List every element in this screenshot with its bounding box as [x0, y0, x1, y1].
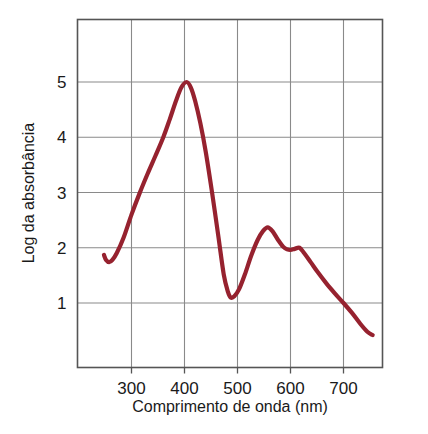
y-tick-label: 1 [57, 294, 66, 313]
x-tick-label: 400 [170, 379, 198, 398]
y-tick-label: 2 [57, 239, 66, 258]
y-axis-title: Log da absorbância [20, 123, 37, 264]
chart-canvas: 300400500600700 12345 Comprimento de ond… [0, 0, 428, 434]
y-tick-label: 5 [57, 73, 66, 92]
x-axis-title: Comprimento de onda (nm) [132, 398, 328, 415]
x-tick-label: 600 [276, 379, 304, 398]
x-tick-label: 300 [117, 379, 145, 398]
x-tick-label: 700 [329, 379, 357, 398]
absorbance-spectrum-chart: 300400500600700 12345 Comprimento de ond… [0, 0, 428, 434]
y-tick-label: 4 [57, 128, 66, 147]
y-tick-label: 3 [57, 184, 66, 203]
x-tick-label: 500 [223, 379, 251, 398]
